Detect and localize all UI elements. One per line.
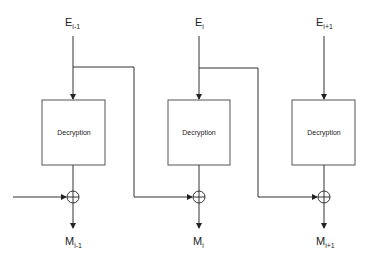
output-label-m-i-minus-1: Mi-1	[65, 235, 82, 249]
input-label-e-i: Ei	[195, 16, 204, 30]
input-label-e-i-plus-1: Ei+1	[316, 16, 333, 30]
cbc-decryption-diagram: Ei-1 Ei Ei+1 Decryption Decryption Decry…	[0, 0, 370, 262]
decryption-box-2: Decryption	[167, 129, 231, 136]
output-label-m-i-plus-1: Mi+1	[316, 235, 335, 249]
decryption-box-3: Decryption	[292, 129, 356, 136]
input-label-e-i-minus-1: Ei-1	[65, 16, 80, 30]
output-label-m-i: Mi	[193, 235, 204, 249]
decryption-box-1: Decryption	[42, 129, 106, 136]
